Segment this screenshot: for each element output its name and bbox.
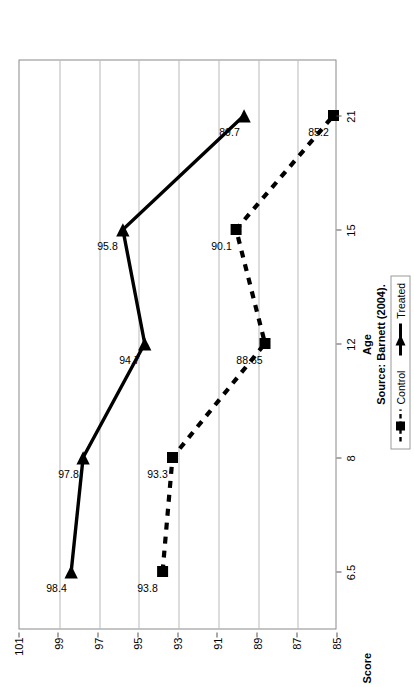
chart-page: 1019997959391898785 Score 93.893.388.659… (0, 0, 414, 687)
plot-inner: 93.893.388.6590.185.298.497.894.795.889.… (19, 60, 335, 628)
source-note: Source: Barnett (2004). (374, 234, 386, 454)
value-axis-tick (256, 632, 257, 637)
series-line-control (162, 115, 333, 571)
plot-area: 93.893.388.6590.185.298.497.894.795.889.… (18, 59, 336, 629)
value-axis-tick (137, 632, 138, 637)
category-axis-tick-label: 6.5 (344, 564, 356, 579)
data-point-label: 93.3 (147, 467, 167, 479)
category-axis-tick (336, 229, 341, 230)
data-point-label: 97.8 (57, 467, 77, 479)
value-axis-tick (57, 632, 58, 637)
data-point-label: 93.8 (137, 581, 157, 593)
value-axis-tick-label: 91 (211, 637, 223, 649)
data-point-marker (167, 452, 178, 463)
legend-item-treated[interactable]: Treated (394, 282, 406, 356)
category-axis-tick-label: 8 (344, 455, 356, 461)
value-axis-tick (336, 632, 337, 637)
data-point-marker (64, 565, 77, 578)
value-axis-tick-label: 87 (290, 637, 302, 649)
category-axis-tick (336, 115, 341, 116)
control-legend-swatch-icon (394, 408, 406, 442)
category-axis-tick-label: 21 (344, 110, 356, 122)
legend-item-control[interactable]: Control (394, 370, 406, 442)
data-point-label: 85.2 (308, 125, 328, 137)
value-axis-tick (296, 632, 297, 637)
value-axis-tick (177, 632, 178, 637)
category-axis-labels: 6.58121521 (342, 59, 360, 629)
category-axis-tick (336, 457, 341, 458)
value-axis-tick (216, 632, 217, 637)
data-point-label: 98.4 (45, 581, 65, 593)
value-axis-tick-label: 85 (330, 637, 342, 649)
value-axis-tick-label: 89 (251, 637, 263, 649)
category-axis-title: Age (360, 284, 372, 404)
value-axis-tick-label: 99 (52, 637, 64, 649)
value-axis-tick (18, 632, 19, 637)
value-axis-tick-label: 93 (171, 637, 183, 649)
value-axis-tick (97, 632, 98, 637)
series-line-treated (71, 115, 244, 571)
value-axis-labels: 1019997959391898785 (18, 637, 336, 687)
chart-legend: Control Treated (390, 275, 410, 449)
data-point-label: 90.1 (210, 239, 230, 251)
category-axis-tick-label: 12 (344, 338, 356, 350)
value-axis-tick-label: 101 (12, 637, 24, 655)
data-point-marker (259, 338, 270, 349)
data-point-marker (230, 224, 241, 235)
value-axis-tick-label: 95 (131, 637, 143, 649)
category-axis-tick-label: 15 (344, 224, 356, 236)
series-layer (19, 58, 337, 628)
category-axis-tick (336, 571, 341, 572)
treated-legend-swatch-icon (394, 322, 406, 356)
data-point-marker (157, 566, 168, 577)
category-axis-tick (336, 343, 341, 344)
data-point-label: 94.7 (119, 353, 139, 365)
data-point-marker (237, 109, 250, 122)
data-point-label: 88.65 (236, 353, 262, 365)
chart-stage: 1019997959391898785 Score 93.893.388.659… (0, 0, 414, 687)
data-point-label: 89.7 (218, 125, 238, 137)
legend-label-control: Control (394, 370, 406, 404)
legend-label-treated: Treated (394, 282, 406, 318)
value-axis-title: Score (360, 652, 372, 683)
data-point-marker (138, 337, 151, 350)
data-point-label: 95.8 (97, 239, 117, 251)
value-axis-tick-label: 97 (92, 637, 104, 649)
